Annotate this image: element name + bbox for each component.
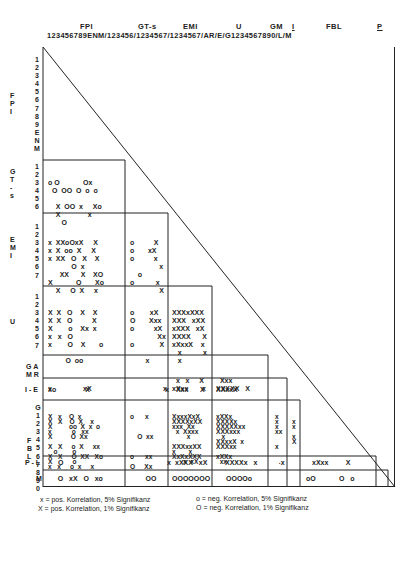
block-m-fpi: O xX O xo [48, 475, 103, 483]
block-pl-fpi: O [58, 459, 63, 467]
row-group-pl: P - L [25, 459, 40, 467]
row-group-fbl: F B L [27, 437, 33, 461]
legend-pos-1: X = pos. Korrelation, 1% Signifikanz [38, 505, 149, 512]
legend-neg-1: O = neg. Korrelation, 1% Signifikanz [196, 504, 309, 511]
block-i-emi: Xxx X [172, 386, 205, 394]
row-index-gts: 123456 [33, 163, 41, 212]
block-pl-u: XXXXx x [225, 459, 257, 467]
block-emi-gts: o Xo xXo x x oo x X [130, 223, 164, 303]
block-gm-emi: x x XxXxx x [172, 361, 206, 401]
row-index-emi: 1234567 [33, 223, 41, 280]
row-group-m: M [36, 475, 42, 483]
block-m-u: OOOOo [226, 475, 252, 483]
block-i-fpi: xo X [48, 386, 90, 394]
block-pl-emi: xXXX xX [175, 459, 207, 467]
block-gm-u: XxxXXXXX X [216, 361, 250, 401]
row-group-u: U [10, 318, 15, 326]
row-index-fpi: 123456789ENM [33, 56, 41, 153]
row-group-i: I - E [25, 386, 38, 394]
block-m-gts: OO [130, 475, 156, 483]
row-group-gm: G A M R [26, 363, 40, 379]
row-group-emi: E M I [10, 236, 16, 260]
row-group-fpi: F P I [10, 92, 16, 116]
block-pl-fbl: xXxx X [312, 459, 351, 467]
block-gm-gts: x [130, 361, 167, 401]
block-fbl-fpi: X x O xX X O X xX oo X x ox o xxX O Xx X… [48, 404, 103, 474]
block-i-gts: x [130, 386, 169, 394]
block-pl-gm: x [275, 459, 285, 467]
legend-neg-5: o = neg. Korrelation, 5% Signifikanz [196, 495, 307, 502]
block-gm-fpi: x xX [48, 361, 92, 401]
block-m-emi: OOOOOOO [172, 475, 210, 483]
block-m-fbl: oO O o [306, 475, 355, 483]
block-i-u: XXxxX [216, 386, 238, 394]
block-emi-fpi: x XXoOxX Xx X oo X Xx XX O X X O x XX X … [48, 223, 104, 303]
row-group-gts: G T - s [10, 168, 16, 200]
block-fbl-i: xx xX [292, 404, 296, 449]
legend-pos-5: x = pos. Korrelation, 5% Signifikanz [40, 496, 150, 503]
row-index-u: 1234567 [33, 293, 41, 350]
block-pl-gts: x [130, 459, 171, 467]
